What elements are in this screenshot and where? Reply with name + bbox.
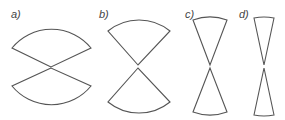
sector-a-bottom xyxy=(12,68,91,105)
sectors-diagram xyxy=(0,0,285,120)
sector-pair-d xyxy=(254,17,274,116)
sector-c-bottom xyxy=(193,68,227,115)
sector-a-top xyxy=(12,29,91,67)
sector-pair-c xyxy=(193,17,227,115)
sector-d-bottom xyxy=(254,68,274,116)
sector-d-top xyxy=(254,17,274,65)
sector-b-bottom xyxy=(108,68,170,113)
sector-b-top xyxy=(108,20,170,65)
sector-c-top xyxy=(193,17,227,65)
sector-pair-b xyxy=(108,20,170,113)
sector-pair-a xyxy=(12,29,91,104)
